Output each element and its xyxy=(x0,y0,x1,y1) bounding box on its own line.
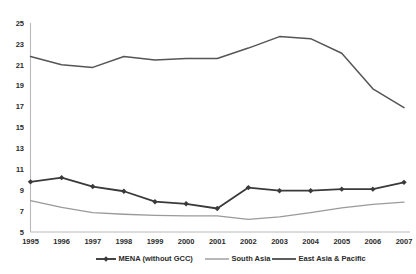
y-tick-label: 25 xyxy=(16,19,24,28)
y-tick-label: 15 xyxy=(16,123,24,132)
x-tick-label: 2002 xyxy=(240,237,257,246)
x-tick-label: 1998 xyxy=(116,237,133,246)
x-tick-label: 2001 xyxy=(209,237,226,246)
x-tick-label: 2004 xyxy=(302,237,320,246)
line-chart: 5791113151719212325 19951996199719981999… xyxy=(0,0,416,274)
y-tick-label: 21 xyxy=(16,61,24,70)
chart-legend: MENA (without GCC)South AsiaEast Asia & … xyxy=(96,254,366,263)
y-tick-label: 23 xyxy=(16,40,24,49)
y-tick-label: 17 xyxy=(16,102,24,111)
y-tick-label: 13 xyxy=(16,144,24,153)
y-tick-label: 9 xyxy=(20,186,24,195)
y-tick-label: 7 xyxy=(20,207,24,216)
x-tick-label: 2006 xyxy=(365,237,382,246)
chart-canvas: 5791113151719212325 19951996199719981999… xyxy=(0,0,416,274)
y-tick-label: 11 xyxy=(16,165,24,174)
x-tick-label: 2000 xyxy=(178,237,195,246)
x-tick-label: 2003 xyxy=(271,237,288,246)
legend-item-label: MENA (without GCC) xyxy=(119,254,194,263)
x-tick-label: 1995 xyxy=(22,237,39,246)
x-tick-label: 2007 xyxy=(396,237,413,246)
x-tick-label: 1997 xyxy=(84,237,101,246)
y-tick-label: 19 xyxy=(16,81,24,90)
y-tick-label: 5 xyxy=(20,228,24,237)
x-tick-label: 1996 xyxy=(53,237,70,246)
x-tick-label: 1999 xyxy=(147,237,164,246)
legend-item-label: East Asia & Pacific xyxy=(299,254,366,263)
legend-item-label: South Asia xyxy=(232,254,272,263)
x-tick-label: 2005 xyxy=(333,237,350,246)
chart-background xyxy=(0,0,416,274)
